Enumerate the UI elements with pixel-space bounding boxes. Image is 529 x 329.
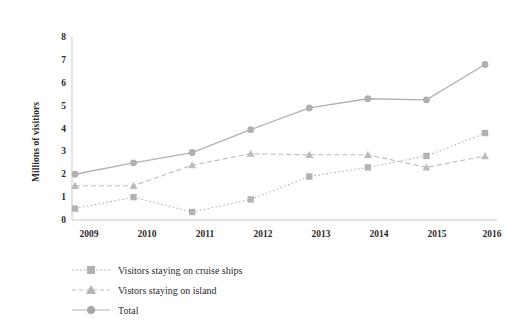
data-point-1-1 (130, 182, 138, 189)
data-point-2-1 (130, 159, 137, 166)
data-point-2-5 (364, 95, 371, 102)
data-point-2-4 (306, 105, 313, 112)
legend-label-total: Total (112, 305, 138, 316)
data-point-1-5 (364, 151, 372, 158)
data-point-0-7 (482, 130, 488, 136)
data-point-1-3 (247, 150, 255, 157)
data-point-0-0 (72, 205, 78, 211)
data-point-0-5 (365, 164, 371, 170)
data-point-0-2 (189, 209, 195, 215)
triangle-marker-icon (70, 282, 112, 298)
series-group (71, 61, 489, 215)
data-point-1-7 (481, 152, 489, 159)
data-point-0-6 (423, 153, 429, 159)
legend-item-cruise-ships[interactable]: Visitors staying on cruise ships (70, 260, 330, 280)
data-point-2-6 (423, 97, 430, 104)
data-point-0-3 (248, 196, 254, 202)
data-point-2-0 (72, 171, 79, 178)
data-point-0-1 (130, 194, 136, 200)
square-marker-icon (70, 262, 112, 278)
data-point-2-7 (482, 61, 489, 68)
chart-page: Millions of visitiors 8 7 6 5 4 3 2 1 0 … (0, 0, 529, 329)
data-point-0-4 (306, 173, 312, 179)
legend-label-island: Vistors staying on island (112, 285, 217, 296)
data-point-2-3 (247, 126, 254, 133)
legend-item-total[interactable]: Total (70, 300, 330, 320)
circle-marker-icon (70, 302, 112, 318)
legend-label-cruise-ships: Visitors staying on cruise ships (112, 265, 242, 276)
chart-legend: Visitors staying on cruise ships Vistors… (70, 260, 330, 320)
data-point-2-2 (189, 149, 196, 156)
legend-item-island[interactable]: Vistors staying on island (70, 280, 330, 300)
